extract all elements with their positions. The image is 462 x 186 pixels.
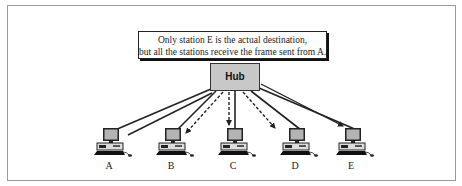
drive-slot [299, 145, 306, 147]
computer-d-icon [280, 128, 318, 157]
mouse [128, 154, 132, 157]
keyboard [218, 151, 249, 155]
keyboard [156, 151, 187, 155]
frame-flow-hub-to-e [261, 84, 343, 126]
mouse [252, 154, 256, 157]
drive-slot [237, 145, 244, 147]
drive-slot [175, 145, 182, 147]
drive-bay [341, 145, 348, 148]
mouse [314, 154, 318, 157]
keyboard [336, 151, 367, 155]
station-label-c: C [223, 160, 243, 171]
caption-line-1: Only station E is the actual destination… [139, 34, 326, 46]
computer-e-icon [336, 128, 374, 157]
station-label-d: D [285, 160, 305, 171]
station-label-e: E [341, 160, 361, 171]
network-diagram [0, 0, 462, 186]
drive-bay [161, 145, 168, 148]
station-label-a: A [99, 160, 119, 171]
computer-c-icon [218, 128, 256, 157]
caption-line-2: but all the stations receive the frame s… [139, 46, 326, 58]
computer-b-icon [156, 128, 194, 157]
drive-slot [113, 145, 120, 147]
keyboard [94, 151, 125, 155]
drive-bay [223, 145, 230, 148]
monitor-screen [229, 130, 242, 140]
monitor-screen [105, 130, 118, 140]
cable-b [177, 91, 216, 130]
mouse [370, 154, 374, 157]
caption-box: Only station E is the actual destination… [138, 31, 327, 59]
keyboard [280, 151, 311, 155]
hub: Hub [210, 63, 260, 91]
drive-bay [99, 145, 106, 148]
monitor-screen [167, 130, 180, 140]
drive-bay [285, 145, 292, 148]
drive-slot [355, 145, 362, 147]
monitor-screen [347, 130, 360, 140]
computer-a-icon [94, 128, 132, 157]
mouse [190, 154, 194, 157]
cable-d [251, 91, 301, 130]
station-label-b: B [161, 160, 181, 171]
monitor-screen [291, 130, 304, 140]
